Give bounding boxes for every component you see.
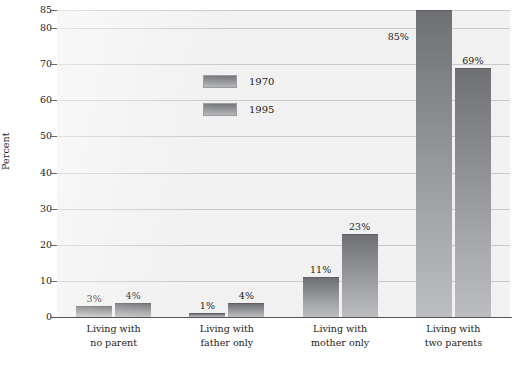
bar: 11% bbox=[303, 277, 339, 317]
y-tick-label: 10 bbox=[8, 276, 52, 286]
y-tick-label: 85 bbox=[8, 5, 52, 15]
y-tick-mark bbox=[50, 100, 57, 101]
legend-swatch-1970 bbox=[203, 75, 237, 88]
y-tick-label: 80 bbox=[8, 23, 52, 33]
bar: 23% bbox=[342, 234, 378, 317]
bar: 3% bbox=[76, 306, 112, 317]
y-tick-label: 0 bbox=[8, 312, 52, 322]
bar-value-label: 69% bbox=[462, 55, 483, 66]
bar: 4% bbox=[115, 303, 151, 317]
legend-label-1995: 1995 bbox=[249, 104, 274, 115]
y-tick-mark bbox=[50, 10, 57, 11]
plot-area: 3%4%1%4%11%23%85%69% 1970 1995 bbox=[57, 10, 510, 317]
y-tick-label: 60 bbox=[8, 96, 52, 106]
y-tick-label: 70 bbox=[8, 59, 52, 69]
legend-item: 1995 bbox=[203, 99, 274, 119]
y-tick-label: 50 bbox=[8, 132, 52, 142]
legend-item: 1970 bbox=[203, 71, 274, 91]
x-axis-line bbox=[50, 317, 512, 318]
x-tick-label: Living with mother only bbox=[284, 322, 397, 349]
bar-value-label: 85% bbox=[388, 31, 409, 42]
legend-swatch-1995 bbox=[203, 103, 237, 116]
y-tick-mark bbox=[50, 136, 57, 137]
bar-value-label: 1% bbox=[200, 300, 215, 311]
legend-label-1970: 1970 bbox=[249, 76, 274, 87]
y-tick-mark bbox=[50, 209, 57, 210]
x-tick-label: Living with no parent bbox=[57, 322, 170, 349]
y-tick-label: 30 bbox=[8, 204, 52, 214]
y-tick-mark bbox=[50, 173, 57, 174]
bar: 69% bbox=[455, 68, 491, 317]
chart-legend: 1970 1995 bbox=[203, 71, 274, 127]
bar-value-label: 3% bbox=[87, 293, 102, 304]
y-tick-mark bbox=[50, 28, 57, 29]
y-tick-label: 20 bbox=[8, 240, 52, 250]
y-tick-mark bbox=[50, 245, 57, 246]
bar-value-label: 4% bbox=[126, 290, 141, 301]
bar: 85% bbox=[416, 10, 452, 317]
bar-value-label: 23% bbox=[349, 221, 370, 232]
y-tick-mark bbox=[50, 64, 57, 65]
bar: 4% bbox=[228, 303, 264, 317]
bar-value-label: 4% bbox=[239, 290, 254, 301]
y-tick-mark bbox=[50, 281, 57, 282]
bar-chart: Percent 0102030405060708085 3%4%1%4%11%2… bbox=[0, 0, 517, 365]
y-tick-label: 40 bbox=[8, 168, 52, 178]
x-tick-label: Living with father only bbox=[170, 322, 283, 349]
x-tick-label: Living with two parents bbox=[397, 322, 510, 349]
y-axis-ticks: 0102030405060708085 bbox=[0, 0, 52, 365]
bar-value-label: 11% bbox=[310, 264, 331, 275]
